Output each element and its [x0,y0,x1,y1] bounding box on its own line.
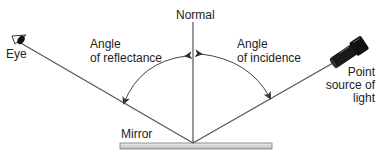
incident-ray [193,63,333,143]
mirror-label: Mirror [121,128,152,141]
source-label-3: light [353,92,375,105]
angle-incidence-label-2: of incidence [237,52,301,65]
eye-icon [12,34,26,45]
reflection-diagram: Normal Eye Angle of reflectance Angle of… [0,0,387,156]
angle-reflectance-label-2: of reflectance [90,52,162,65]
normal-label: Normal [176,9,215,22]
mirror-bar [120,143,272,149]
angle-reflectance-label-1: Angle [90,38,121,51]
angle-incidence-label-1: Angle [237,38,268,51]
eye-label: Eye [6,48,27,61]
